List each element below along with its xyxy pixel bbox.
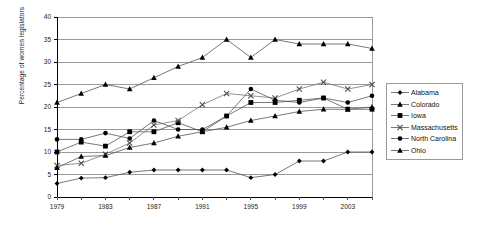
- data-point: [127, 136, 132, 141]
- legend-label: Iowa: [411, 112, 426, 119]
- y-tick-label: 15: [29, 126, 51, 133]
- data-point: [398, 90, 403, 95]
- chart-legend: AlabamaColoradoIowaMassachusettsNorth Ca…: [386, 83, 463, 160]
- data-point: [151, 75, 157, 80]
- y-tick-label: 25: [29, 81, 51, 88]
- y-tick-label: 10: [29, 148, 51, 155]
- y-tick-label: 0: [29, 193, 51, 200]
- data-point: [248, 100, 253, 105]
- data-point: [321, 96, 326, 101]
- data-point: [273, 172, 278, 177]
- legend-item-ohio[interactable]: Ohio: [390, 145, 458, 157]
- x-tick-label: 1991: [182, 203, 222, 210]
- data-point: [152, 168, 157, 173]
- x-tick-label: 2003: [328, 203, 368, 210]
- legend-item-massachusetts[interactable]: Massachusetts: [390, 122, 458, 134]
- data-point: [176, 168, 181, 173]
- y-tick-label: 30: [29, 58, 51, 65]
- series-line-colorado: [57, 40, 372, 103]
- data-point: [321, 159, 326, 164]
- data-point: [370, 93, 375, 98]
- data-point: [55, 137, 60, 142]
- data-point: [370, 150, 375, 155]
- data-point: [398, 113, 403, 118]
- data-point: [297, 159, 302, 164]
- data-point: [152, 129, 157, 134]
- data-point: [103, 131, 108, 136]
- data-point: [248, 55, 254, 60]
- y-tick-label: 20: [29, 103, 51, 110]
- data-point: [176, 127, 181, 132]
- y-tick-label: 40: [29, 13, 51, 20]
- legend-item-iowa[interactable]: Iowa: [390, 110, 458, 122]
- x-tick-label: 1995: [231, 203, 271, 210]
- data-point: [55, 181, 60, 186]
- data-point: [249, 87, 254, 92]
- data-point: [200, 168, 205, 173]
- data-point: [200, 55, 206, 60]
- data-point: [127, 129, 132, 134]
- x-tick-label: 1983: [85, 203, 125, 210]
- data-point: [79, 137, 84, 142]
- data-point: [297, 86, 302, 91]
- data-point: [55, 150, 60, 155]
- legend-label: Ohio: [411, 147, 426, 154]
- data-point: [345, 100, 350, 105]
- cross-marker-icon: [390, 122, 410, 133]
- legend-label: Massachusetts: [411, 124, 458, 131]
- triangle-marker-icon: [390, 99, 410, 110]
- data-point: [103, 144, 108, 149]
- data-point: [103, 175, 108, 180]
- triangle-marker-icon: [390, 145, 410, 156]
- diamond-marker-icon: [390, 87, 410, 98]
- data-point: [248, 175, 253, 180]
- data-point: [152, 118, 157, 123]
- series-line-ohio: [57, 107, 372, 168]
- x-tick-label: 1979: [37, 203, 77, 210]
- legend-item-north-carolina[interactable]: North Carolina: [390, 133, 458, 145]
- data-point: [127, 170, 132, 175]
- square-marker-icon: [390, 110, 410, 121]
- legend-item-colorado[interactable]: Colorado: [390, 99, 458, 111]
- data-point: [345, 150, 350, 155]
- y-tick-label: 5: [29, 171, 51, 178]
- data-point: [273, 98, 278, 103]
- legend-label: Colorado: [411, 101, 439, 108]
- circle-marker-icon: [390, 133, 410, 144]
- chart-container: Percentage of women legislators AlabamaC…: [0, 0, 481, 243]
- data-point: [224, 168, 229, 173]
- x-tick-label: 1987: [134, 203, 174, 210]
- data-point: [79, 176, 84, 181]
- y-tick-label: 35: [29, 36, 51, 43]
- data-point: [297, 100, 302, 105]
- data-point: [398, 136, 403, 141]
- data-point: [224, 114, 229, 119]
- legend-label: North Carolina: [411, 135, 456, 142]
- x-tick-label: 1999: [279, 203, 319, 210]
- legend-item-alabama[interactable]: Alabama: [390, 87, 458, 99]
- legend-label: Alabama: [411, 89, 439, 96]
